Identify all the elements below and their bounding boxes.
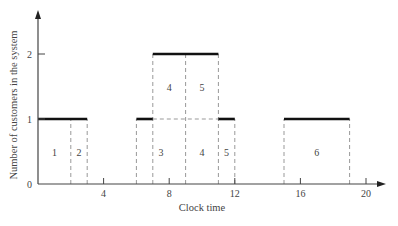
x-ticks: 48121620 <box>101 178 371 199</box>
x-tick-label: 12 <box>230 188 240 199</box>
x-tick-label: 16 <box>295 188 305 199</box>
customer-label: 4 <box>200 147 205 158</box>
customer-label: 5 <box>200 82 205 93</box>
customer-label: 4 <box>167 82 172 93</box>
customer-label: 5 <box>224 147 229 158</box>
y-ticks: 012 <box>27 49 45 190</box>
y-axis-arrow-icon <box>35 10 41 19</box>
x-tick-label: 4 <box>101 188 106 199</box>
step-series <box>38 54 350 119</box>
x-axis-label: Clock time <box>179 202 226 213</box>
y-tick-label: 2 <box>27 49 32 60</box>
customer-label: 1 <box>52 147 57 158</box>
x-axis-arrow-icon <box>377 181 386 187</box>
x-tick-label: 20 <box>361 188 371 199</box>
y-axis-label: Number of customers in the system <box>8 30 19 179</box>
customer-label: 6 <box>314 147 319 158</box>
customer-label: 3 <box>159 147 164 158</box>
y-tick-label: 1 <box>27 114 32 125</box>
y-tick-label: 0 <box>27 179 32 190</box>
customer-label: 2 <box>77 147 82 158</box>
step-chart: 12345456 48121620 012 Clock time Number … <box>0 0 398 226</box>
x-tick-label: 8 <box>167 188 172 199</box>
